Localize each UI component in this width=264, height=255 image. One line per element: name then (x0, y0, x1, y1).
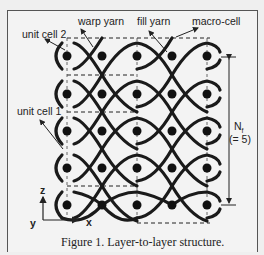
macro-cell-leader (176, 28, 198, 37)
unit-cell-1-leader (40, 120, 63, 149)
z-axis-label: z (40, 184, 45, 196)
unit-cell-2-label: unit cell 2 (22, 28, 67, 40)
macro-cell-label: macro-cell (192, 15, 240, 27)
nf-label: Nf (234, 120, 244, 134)
warp-yarn-label: warp yarn (77, 15, 124, 27)
layer-to-layer-diagram: unit cell 2 warp yarn fill yarn macro-ce… (0, 0, 264, 255)
fill-yarn-label: fill yarn (137, 15, 170, 27)
y-axis-label: y (30, 217, 36, 229)
unit-cell-1-label: unit cell 1 (17, 105, 62, 117)
nf-value: (= 5) (229, 133, 251, 145)
figure-caption: Figure 1. Layer-to-layer structure. (61, 235, 224, 249)
x-axis-label: x (86, 216, 92, 228)
